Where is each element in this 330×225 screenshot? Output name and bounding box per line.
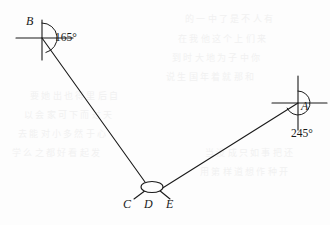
point-label-e: E <box>166 198 173 210</box>
angle-label-b: 165° <box>55 32 77 44</box>
angle-label-a: 245° <box>291 128 313 140</box>
segment-b-to-vertex <box>42 38 145 182</box>
point-label-d: D <box>144 198 153 210</box>
geometry-diagram: 的 一 中 了 是 不 人 有 在 我 他 这 个 上 们 来 到 时 大 地 … <box>0 0 330 225</box>
point-label-a: A <box>301 100 308 112</box>
point-label-b: B <box>26 15 33 27</box>
point-label-c: C <box>123 198 131 210</box>
figure-svg <box>0 0 330 225</box>
vertex-ellipse <box>141 182 163 193</box>
segment-vertex-to-a <box>161 103 298 189</box>
